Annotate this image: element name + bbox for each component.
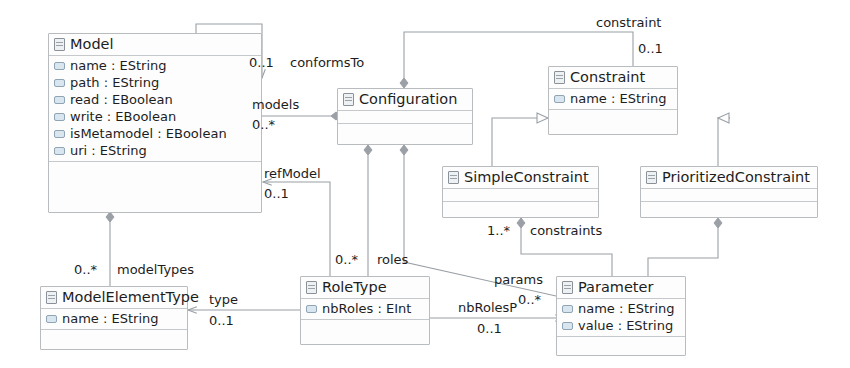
attribute-label: isMetamodel : EBoolean — [70, 125, 227, 142]
class-constraint[interactable]: Constraint name : EString — [548, 66, 678, 135]
attributes-compartment: nbRoles : EInt — [301, 298, 429, 319]
attribute-row: path : EString — [54, 74, 255, 91]
class-header: Model — [49, 34, 261, 55]
class-icon — [646, 171, 657, 184]
attribute-label: value : EString — [578, 317, 673, 334]
edge-label-params-multiplicity: 0..* — [518, 292, 541, 307]
attribute-icon — [46, 315, 57, 323]
attribute-icon — [54, 147, 65, 155]
edge-label-models-multiplicity: 0..* — [252, 117, 275, 132]
attribute-row: nbRoles : EInt — [306, 300, 423, 317]
attribute-row: name : EString — [562, 300, 679, 317]
class-parameter[interactable]: Parameter name : EString value : EString — [556, 276, 686, 356]
class-modelelementtype[interactable]: ModelElementType name : EString — [40, 286, 188, 350]
attributes-compartment — [641, 188, 817, 201]
edge-label-refmodel-multiplicity: 0..1 — [264, 186, 289, 201]
edge-label-roles-multiplicity: 0..* — [335, 252, 358, 267]
attribute-row: name : EString — [54, 57, 255, 74]
attributes-compartment: name : EString — [549, 88, 677, 109]
class-icon — [46, 291, 57, 304]
edge-label-conformsto-multiplicity: 0..1 — [249, 55, 274, 70]
attribute-label: uri : EString — [70, 142, 147, 159]
attribute-icon — [562, 305, 573, 313]
attribute-label: name : EString — [62, 310, 159, 327]
class-name: Constraint — [570, 69, 645, 85]
class-name: Parameter — [578, 279, 653, 295]
class-header: Configuration — [338, 89, 472, 110]
attribute-row: name : EString — [554, 90, 671, 107]
diamond-prioritized-params — [714, 218, 722, 228]
attributes-compartment — [443, 188, 598, 201]
attribute-icon — [54, 62, 65, 70]
attribute-row: isMetamodel : EBoolean — [54, 125, 255, 142]
class-header: SimpleConstraint — [443, 167, 598, 188]
edge-label-modeltypes: modelTypes — [117, 262, 194, 277]
class-name: Configuration — [359, 91, 457, 107]
edge-gen-prioritized — [718, 118, 730, 166]
diagram-canvas: Model name : EString path : EString read… — [0, 0, 850, 368]
class-header: Parameter — [557, 277, 685, 298]
attributes-compartment: name : EString value : EString — [557, 298, 685, 336]
attribute-label: write : EBoolean — [70, 108, 176, 125]
attribute-label: read : EBoolean — [70, 91, 173, 108]
class-prioritizedconstraint[interactable]: PrioritizedConstraint — [640, 166, 818, 218]
operations-compartment — [49, 161, 261, 174]
class-configuration[interactable]: Configuration — [337, 88, 473, 145]
operations-compartment — [443, 201, 598, 214]
class-icon — [562, 281, 573, 294]
operations-compartment — [549, 109, 677, 122]
edge-label-constraints: constraints — [530, 223, 602, 238]
diamond-constraint — [400, 78, 408, 88]
diamond-params — [400, 145, 408, 155]
operations-compartment — [641, 201, 817, 214]
class-header: ModelElementType — [41, 287, 187, 308]
operations-compartment — [301, 319, 429, 332]
edge-gen-simple — [492, 118, 548, 166]
edge-prioritized-parameter — [648, 218, 718, 276]
attribute-icon — [562, 322, 573, 330]
attribute-row: value : EString — [562, 317, 679, 334]
attribute-row: read : EBoolean — [54, 91, 255, 108]
edge-label-conformsto: conformsTo — [290, 55, 364, 70]
attribute-icon — [54, 130, 65, 138]
class-name: Model — [70, 36, 114, 52]
edge-label-type: type — [209, 292, 238, 307]
edge-label-modeltypes-multiplicity: 0..* — [74, 262, 97, 277]
class-name: PrioritizedConstraint — [662, 169, 810, 185]
edge-label-constraint-multiplicity: 0..1 — [638, 41, 663, 56]
operations-compartment — [41, 329, 187, 342]
attribute-icon — [54, 113, 65, 121]
edge-label-nbrolesp: nbRolesP — [458, 300, 517, 315]
attributes-compartment — [338, 110, 472, 123]
operations-compartment — [557, 336, 685, 349]
edge-label-params: params — [494, 272, 543, 287]
class-icon — [448, 171, 459, 184]
edge-label-nbrolesp-multiplicity: 0..1 — [477, 321, 502, 336]
edge-label-constraint: constraint — [596, 15, 661, 30]
attribute-label: nbRoles : EInt — [322, 300, 411, 317]
attribute-label: name : EString — [578, 300, 675, 317]
attribute-icon — [54, 96, 65, 104]
class-icon — [306, 281, 317, 294]
attribute-label: path : EString — [70, 74, 159, 91]
attribute-icon — [554, 95, 565, 103]
attribute-row: name : EString — [46, 310, 181, 327]
operations-compartment — [338, 123, 472, 136]
class-header: Constraint — [549, 67, 677, 88]
class-roletype[interactable]: RoleType nbRoles : EInt — [300, 276, 430, 345]
diamond-constraints — [517, 218, 525, 228]
edge-label-type-multiplicity: 0..1 — [209, 313, 234, 328]
attribute-label: name : EString — [570, 90, 667, 107]
edge-label-constraints-multiplicity: 1..* — [487, 223, 510, 238]
attribute-label: name : EString — [70, 57, 167, 74]
class-simpleconstraint[interactable]: SimpleConstraint — [442, 166, 599, 218]
class-header: PrioritizedConstraint — [641, 167, 817, 188]
edge-label-models: models — [252, 97, 299, 112]
class-name: RoleType — [322, 279, 387, 295]
attribute-icon — [54, 79, 65, 87]
diamond-modeltypes — [106, 212, 114, 222]
class-name: SimpleConstraint — [464, 169, 589, 185]
class-model[interactable]: Model name : EString path : EString read… — [48, 33, 262, 213]
attribute-icon — [306, 305, 317, 313]
class-header: RoleType — [301, 277, 429, 298]
